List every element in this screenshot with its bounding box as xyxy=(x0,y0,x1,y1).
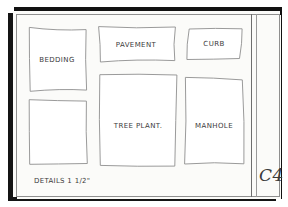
detail-label-manhole: MANHOLE xyxy=(195,122,233,130)
sheet-number-label: C4 xyxy=(259,165,284,185)
detail-label-curb: CURB xyxy=(203,40,224,48)
detail-label-bedding: BEDDING xyxy=(39,56,75,64)
title-block-divider xyxy=(251,14,252,197)
detail-label-pavement: PAVEMENT xyxy=(116,41,157,49)
detail-box-tree-plant xyxy=(97,73,179,168)
detail-label-tree-plant: TREE PLANT. xyxy=(114,122,163,130)
drawing-sheet-scan: DETAILS 1 1/2" C4 BEDDINGPAVEMENTCURBTRE… xyxy=(0,0,288,207)
title-block-divider-secondary xyxy=(256,14,257,197)
details-scale-caption: DETAILS 1 1/2" xyxy=(34,177,90,185)
detail-box-unlabeled xyxy=(26,97,90,167)
